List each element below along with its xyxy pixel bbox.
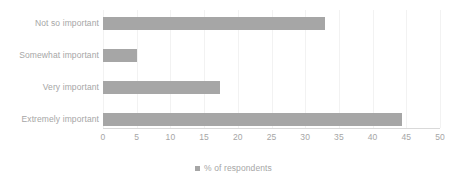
bar-row[interactable] bbox=[103, 17, 325, 30]
bar-somewhat-important[interactable] bbox=[103, 49, 137, 62]
x-tick-label: 20 bbox=[223, 132, 253, 142]
x-tick-label: 15 bbox=[189, 132, 219, 142]
bar-very-important[interactable] bbox=[103, 81, 220, 94]
x-tick-label: 30 bbox=[290, 132, 320, 142]
y-axis-label-very-important: Very important bbox=[0, 81, 99, 94]
bar-chart: Not so important Somewhat important Very… bbox=[0, 0, 467, 190]
x-tick-label: 35 bbox=[324, 132, 354, 142]
bar-row[interactable] bbox=[103, 49, 137, 62]
y-axis-label-extremely-important: Extremely important bbox=[0, 113, 99, 126]
bar-row[interactable] bbox=[103, 81, 220, 94]
x-tick-label: 0 bbox=[88, 132, 118, 142]
legend-square-icon bbox=[195, 166, 200, 171]
plot-area bbox=[103, 10, 440, 128]
legend-item-label: % of respondents bbox=[204, 163, 272, 173]
gridline bbox=[373, 10, 374, 128]
chart-legend[interactable]: % of respondents bbox=[0, 163, 467, 173]
gridline bbox=[440, 10, 441, 128]
x-tick-label: 10 bbox=[155, 132, 185, 142]
gridline bbox=[339, 10, 340, 128]
gridline bbox=[406, 10, 407, 128]
x-tick-label: 45 bbox=[391, 132, 421, 142]
x-tick-label: 40 bbox=[358, 132, 388, 142]
bar-extremely-important[interactable] bbox=[103, 113, 402, 126]
y-axis-label-not-so-important: Not so important bbox=[0, 17, 99, 30]
y-axis-label-somewhat-important: Somewhat important bbox=[0, 49, 99, 62]
bar-row[interactable] bbox=[103, 113, 402, 126]
x-tick-label: 5 bbox=[122, 132, 152, 142]
x-tick-label: 50 bbox=[425, 132, 455, 142]
bar-not-so-important[interactable] bbox=[103, 17, 325, 30]
x-tick-label: 25 bbox=[257, 132, 287, 142]
x-axis-line bbox=[103, 128, 440, 129]
